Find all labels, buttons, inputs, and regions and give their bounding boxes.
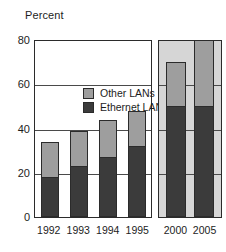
bar-group-historical — [35, 41, 151, 217]
x-axis-labels-historical: 1992 1993 1994 1995 — [34, 224, 152, 242]
bar-2005-other-lans — [194, 40, 214, 106]
bar-1993-other-lans — [70, 131, 88, 167]
y-tick-40: 40 — [0, 124, 30, 135]
y-tick-80: 80 — [0, 35, 30, 46]
bar-1994-other-lans — [99, 120, 117, 158]
bar-2000-ethernet-lans — [166, 106, 186, 217]
bar-1992-other-lans — [41, 142, 59, 178]
bar-1994-ethernet-lans — [99, 157, 117, 217]
plot-area-projected — [159, 41, 221, 217]
x-tick-2005: 2005 — [193, 224, 216, 242]
legend-item-other-lans: Other LANs — [83, 88, 168, 99]
bar-group-projected — [159, 41, 221, 217]
legend-swatch-ethernet-lans-icon — [83, 102, 94, 113]
bar-1993 — [70, 131, 88, 218]
bar-1995-ethernet-lans — [128, 146, 146, 217]
x-tick-1994: 1994 — [96, 224, 119, 242]
plot-area-historical — [35, 41, 151, 217]
bar-1994 — [99, 120, 117, 218]
bar-1995 — [128, 111, 146, 218]
chart-container: Percent 80 60 40 20 0 — [0, 0, 226, 252]
x-tick-1995: 1995 — [126, 224, 149, 242]
legend-label-other-lans: Other LANs — [100, 88, 155, 99]
x-tick-1992: 1992 — [37, 224, 60, 242]
bar-2000-other-lans — [166, 62, 186, 106]
x-tick-2000: 2000 — [164, 224, 187, 242]
bar-2000 — [166, 62, 186, 217]
bar-2005 — [194, 40, 214, 217]
plot-panel-projected — [158, 40, 222, 218]
bar-1993-ethernet-lans — [70, 166, 88, 217]
chart-axis-title: Percent — [25, 9, 64, 21]
legend-swatch-other-lans-icon — [83, 88, 94, 99]
bar-1992-ethernet-lans — [41, 177, 59, 217]
x-axis-labels-projected: 2000 2005 — [158, 224, 222, 242]
y-tick-20: 20 — [0, 168, 30, 179]
bar-1992 — [41, 142, 59, 218]
chart-legend: Other LANs Ethernet LANs — [83, 88, 168, 113]
plot-panel-historical: Other LANs Ethernet LANs — [34, 40, 152, 218]
legend-item-ethernet-lans: Ethernet LANs — [83, 102, 168, 113]
y-tick-60: 60 — [0, 79, 30, 90]
bar-2005-ethernet-lans — [194, 106, 214, 217]
y-tick-0: 0 — [0, 212, 30, 223]
x-tick-1993: 1993 — [67, 224, 90, 242]
y-axis: 80 60 40 20 0 — [0, 0, 30, 252]
bar-1995-other-lans — [128, 111, 146, 147]
